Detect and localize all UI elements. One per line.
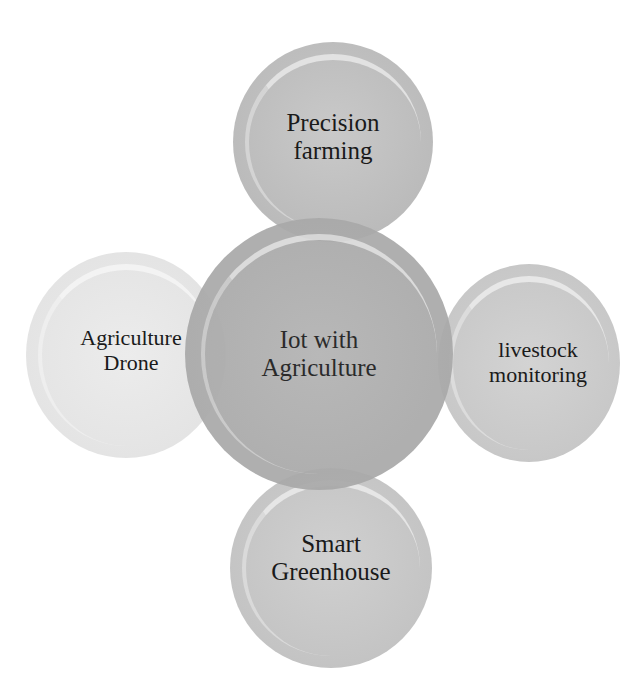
node-livestock-monitoring: livestock monitoring	[438, 264, 620, 462]
node-label: Agriculture Drone	[80, 326, 181, 375]
node-smart-greenhouse: Smart Greenhouse	[230, 468, 432, 668]
node-label: livestock monitoring	[489, 338, 587, 387]
node-label: Smart Greenhouse	[271, 530, 390, 586]
center-label: Iot with Agriculture	[261, 326, 376, 382]
node-label: Precision farming	[286, 109, 379, 165]
node-precision-farming: Precision farming	[233, 42, 433, 242]
center-node-iot-with-agriculture: Iot with Agriculture	[185, 218, 453, 490]
iot-agriculture-diagram: Precision farming Agriculture Drone live…	[0, 0, 643, 688]
